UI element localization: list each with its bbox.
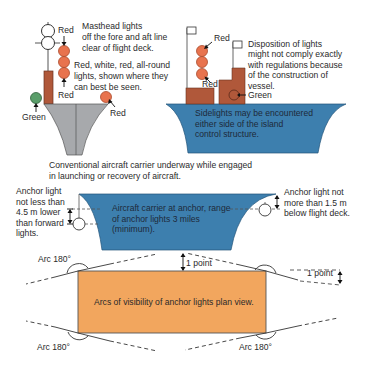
side-red-label: Red <box>110 108 126 118</box>
note-line: Masthead lights <box>82 21 167 32</box>
note-line: clear of flight deck. <box>82 43 167 54</box>
note-line: off the fore and aft line <box>82 32 167 43</box>
note-line: might not comply exactly <box>248 49 343 59</box>
side-green-label: Green <box>248 90 272 100</box>
anchor-right-note: Anchor light not more than 1.5 m below f… <box>284 187 350 219</box>
anchor-hull-note: Aircraft carrier at anchor, range of anc… <box>112 203 230 235</box>
note-line: lights. <box>16 228 65 239</box>
island <box>44 71 53 104</box>
allround-light-red-bottom <box>59 68 70 79</box>
side-bottom-red-label: Red <box>202 79 218 89</box>
anchor-light-forward <box>259 204 271 216</box>
masthead-light-top <box>42 25 55 38</box>
allround-light-red-top <box>59 46 70 57</box>
note-line: of the construction of <box>248 70 343 80</box>
note-line: more than 1.5 m <box>284 198 350 209</box>
lower-red-label: Red <box>58 90 74 100</box>
note-line: either side of the island <box>195 119 313 130</box>
note-line: than forward <box>16 218 65 229</box>
note-line: Anchor light <box>16 186 65 197</box>
underway-caption: Conventional aircraft carrier underway w… <box>49 160 252 182</box>
arc-bottom-right-label: Arc 180° <box>239 342 272 352</box>
note-line: lights, shown where they <box>74 71 170 82</box>
arc-bottom-left-label: Arc 180° <box>37 342 70 352</box>
arc-top-left-label: Arc 180° <box>38 254 71 264</box>
note-line: below flight deck. <box>284 208 350 219</box>
sidelights-note: Sidelights may be encountered either sid… <box>195 108 313 140</box>
caption-line: in launching or recovery of aircraft. <box>49 171 252 182</box>
note-line: control structure. <box>195 129 313 140</box>
green-sidelight <box>31 93 42 104</box>
note-line: not less than <box>16 197 65 208</box>
masthead-light-bottom <box>42 37 55 50</box>
note-line: can best be seen. <box>74 82 170 93</box>
disposition-note: Disposition of lights might not comply e… <box>248 39 343 91</box>
plan-view-title: Arcs of visibility of anchor lights plan… <box>94 297 254 307</box>
green-label: Green <box>22 112 46 122</box>
note-line: Anchor light not <box>284 187 350 198</box>
note-line: of anchor lights 3 miles <box>112 214 230 225</box>
point-top-label: 1 point <box>186 258 212 268</box>
allround-note: Red, white, red, all-round lights, shown… <box>74 60 170 93</box>
side-top-red-label: Red <box>214 33 230 43</box>
masthead-note: Masthead lights off the fore and aft lin… <box>82 21 167 54</box>
anchor-left-note: Anchor light not less than 4.5 m lower t… <box>16 186 65 239</box>
note-line: Red, white, red, all-round <box>74 60 170 71</box>
anchor-light-aft <box>73 218 85 230</box>
note-line: Sidelights may be encountered <box>195 108 313 119</box>
note-line: 4.5 m lower <box>16 207 65 218</box>
note-line: Disposition of lights <box>248 39 343 49</box>
note-line: with regulations because <box>248 60 343 70</box>
masthead-red-label: Red <box>58 25 74 35</box>
point-right-label: 1 point <box>307 268 333 278</box>
allround-light-white <box>59 57 70 68</box>
note-line: (minimum). <box>112 224 230 235</box>
caption-line: Conventional aircraft carrier underway w… <box>49 160 252 171</box>
note-line: Aircraft carrier at anchor, range <box>112 203 230 214</box>
